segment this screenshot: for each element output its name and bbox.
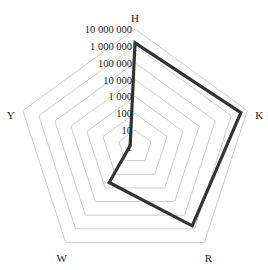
tick-label: 1 000 000: [90, 41, 132, 52]
axis-label-y: Y: [7, 109, 15, 121]
axis-label-w: W: [56, 252, 67, 264]
axis-label-k: K: [255, 109, 263, 121]
tick-label: 10 000 000: [85, 24, 132, 35]
tick-label: 1: [127, 142, 132, 153]
tick-label: 1 000: [108, 91, 132, 102]
axis-label-h: H: [131, 12, 139, 24]
grid-ring: [55, 63, 215, 215]
tick-labels: 1101001 00010 000100 0001 000 00010 000 …: [85, 24, 132, 153]
tick-label: 100: [116, 108, 132, 119]
tick-label: 10: [122, 125, 133, 136]
tick-label: 10 000: [103, 75, 132, 86]
tick-label: 100 000: [98, 58, 132, 69]
radar-chart: 1101001 00010 000100 0001 000 00010 000 …: [0, 0, 268, 270]
axis-label-r: R: [205, 252, 213, 264]
grid-ring: [103, 113, 167, 174]
